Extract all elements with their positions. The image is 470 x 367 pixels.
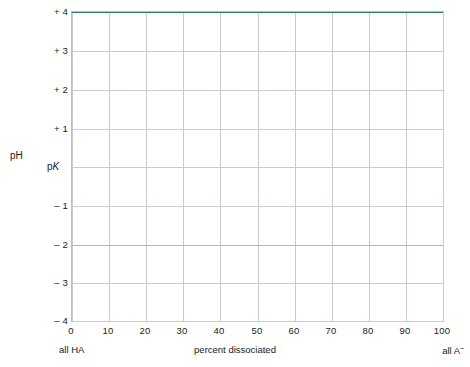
right-endpoint-charge: – <box>460 344 464 351</box>
plot-area <box>71 11 444 322</box>
y-axis-title: pH <box>10 150 23 161</box>
y-tick-label: – 4 <box>34 315 68 326</box>
x-tick-label: 40 <box>214 325 225 336</box>
gridline-horizontal <box>72 206 443 207</box>
pk-annotation-label: pK <box>47 161 59 172</box>
x-tick-label: 30 <box>177 325 188 336</box>
y-tick-label: + 3 <box>34 45 68 56</box>
gridline-horizontal <box>72 321 443 322</box>
gridline-horizontal <box>72 283 443 284</box>
lower-accent-line <box>72 245 443 246</box>
x-tick-label: 0 <box>68 325 73 336</box>
y-tick-label: + 2 <box>34 84 68 95</box>
x-tick-label: 70 <box>326 325 337 336</box>
y-tick-label: – 1 <box>34 200 68 211</box>
gridline-horizontal <box>72 167 443 168</box>
x-tick-label: 10 <box>103 325 114 336</box>
gridline-horizontal <box>72 129 443 130</box>
pk-italic-k: K <box>53 161 60 172</box>
gridline-horizontal <box>72 51 443 52</box>
top-accent-line <box>72 12 443 13</box>
x-tick-label: 80 <box>363 325 374 336</box>
gridline-vertical <box>443 12 444 321</box>
right-endpoint-text: all A <box>442 345 460 356</box>
y-tick-label: – 2 <box>34 239 68 250</box>
x-tick-label: 100 <box>434 325 450 336</box>
x-axis-tick-labels: 0 10 20 30 40 50 60 70 80 90 100 <box>71 325 444 339</box>
gridline-horizontal <box>72 90 443 91</box>
ph-titration-chart: + 4 + 3 + 2 + 1 – 1 – 2 – 3 – 4 0 10 20 … <box>0 0 470 367</box>
x-tick-label: 90 <box>400 325 411 336</box>
left-endpoint-label: all HA <box>59 344 84 355</box>
y-tick-label: + 4 <box>34 6 68 17</box>
y-tick-label: – 3 <box>34 277 68 288</box>
x-tick-label: 50 <box>252 325 263 336</box>
right-endpoint-label: all A– <box>442 344 464 356</box>
x-tick-label: 60 <box>289 325 300 336</box>
y-tick-label: + 1 <box>34 123 68 134</box>
x-tick-label: 20 <box>140 325 151 336</box>
